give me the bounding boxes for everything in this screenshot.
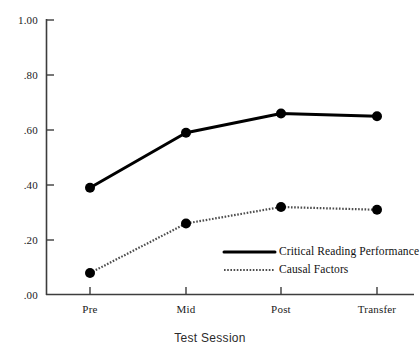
series-critical-reading-performance bbox=[85, 109, 382, 193]
legend-label-critical-reading-performance: Critical Reading Performance bbox=[279, 245, 419, 257]
legend-label-causal-factors: Causal Factors bbox=[279, 263, 348, 275]
x-tick-label-transfer: Transfer bbox=[342, 303, 412, 315]
data-point bbox=[372, 111, 382, 121]
data-point bbox=[276, 202, 286, 212]
plot-area bbox=[0, 0, 420, 352]
x-tick-label-mid: Mid bbox=[151, 303, 221, 315]
x-tick-label-pre: Pre bbox=[55, 303, 125, 315]
data-point bbox=[181, 128, 191, 138]
y-tick-label-1: 1.00 bbox=[4, 14, 38, 26]
y-tick-label-6: .00 bbox=[4, 289, 38, 301]
x-tick-label-post: Post bbox=[246, 303, 316, 315]
y-tick-label-3: .60 bbox=[4, 124, 38, 136]
y-tick-label-4: .40 bbox=[4, 179, 38, 191]
line-chart-figure: 1.00 .80 .60 .40 .20 .00 Pre Mid Post Tr… bbox=[0, 0, 420, 352]
y-tick-label-2: .80 bbox=[4, 69, 38, 81]
data-point bbox=[276, 109, 286, 119]
y-tick-label-5: .20 bbox=[4, 234, 38, 246]
data-point bbox=[85, 268, 95, 278]
x-axis-title: Test Session bbox=[0, 331, 420, 345]
data-point bbox=[181, 219, 191, 229]
data-point bbox=[85, 183, 95, 193]
legend-sample-lines bbox=[224, 252, 275, 270]
data-point bbox=[372, 205, 382, 215]
